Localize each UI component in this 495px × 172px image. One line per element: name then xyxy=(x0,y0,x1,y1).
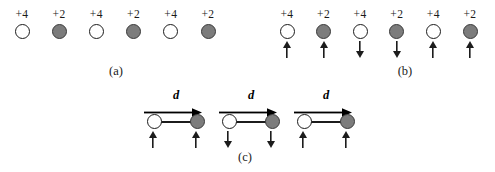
open-charge-circle xyxy=(353,24,368,39)
arrow-up-icon xyxy=(428,41,438,58)
spin-arrow-slot xyxy=(307,41,341,61)
dipole-spin-arrows xyxy=(144,131,208,148)
arrow-up-icon xyxy=(298,131,308,148)
open-charge-circle xyxy=(147,114,162,129)
charge-value-label: +4 xyxy=(416,8,450,21)
dipole-spin-arrows xyxy=(219,131,283,148)
dipole-pair xyxy=(144,114,208,130)
spin-arrow-slot xyxy=(117,41,151,61)
arrow-up-icon xyxy=(148,131,158,148)
spin-arrow-slot xyxy=(154,41,188,61)
right-spin-arrow xyxy=(191,131,201,152)
spin-arrow-slot xyxy=(42,41,76,61)
charge-value-label: +4 xyxy=(270,8,304,21)
charge-unit: +4 xyxy=(79,8,113,61)
charge-unit: +2 xyxy=(42,8,76,61)
charge-unit: +4 xyxy=(270,8,304,61)
charge-value-label: +2 xyxy=(191,8,225,21)
arrow-down-icon xyxy=(266,131,276,148)
charge-unit: +4 xyxy=(5,8,39,61)
filled-charge-circle xyxy=(340,114,355,129)
charge-value-label: +4 xyxy=(154,8,188,21)
dipole-pair xyxy=(219,114,283,130)
panel-c-caption: (c) xyxy=(225,150,265,165)
open-charge-circle xyxy=(426,24,441,39)
spin-arrow-slot xyxy=(343,41,377,61)
charge-unit: +2 xyxy=(380,8,414,61)
filled-charge-circle xyxy=(201,24,216,39)
dipole-spin-arrows xyxy=(294,131,358,148)
panel-b-caption: (b) xyxy=(385,64,425,79)
separation-label: d xyxy=(144,88,208,103)
spin-arrow-slot xyxy=(416,41,450,61)
filled-charge-circle xyxy=(389,24,404,39)
charge-value-label: +2 xyxy=(380,8,414,21)
spin-arrow-slot xyxy=(270,41,304,61)
dipole-group: d xyxy=(294,90,358,148)
charge-value-label: +4 xyxy=(343,8,377,21)
dipole-group: d xyxy=(144,90,208,148)
left-spin-arrow xyxy=(223,131,233,152)
left-spin-arrow xyxy=(148,131,158,152)
open-charge-circle xyxy=(297,114,312,129)
separation-label: d xyxy=(294,88,358,103)
right-spin-arrow xyxy=(341,131,351,152)
arrow-up-icon xyxy=(465,41,475,58)
filled-charge-circle xyxy=(265,114,280,129)
right-spin-arrow xyxy=(266,131,276,152)
arrow-up-icon xyxy=(191,131,201,148)
charge-unit: +2 xyxy=(191,8,225,61)
charge-unit: +2 xyxy=(117,8,151,61)
filled-charge-circle xyxy=(126,24,141,39)
panel-c-dipole-row: ddd xyxy=(0,90,495,152)
arrow-up-icon xyxy=(282,41,292,58)
open-charge-circle xyxy=(163,24,178,39)
charge-value-label: +4 xyxy=(79,8,113,21)
arrow-down-icon xyxy=(392,41,402,58)
charge-value-label: +4 xyxy=(5,8,39,21)
arrow-up-icon xyxy=(341,131,351,148)
physics-figure: +4+2+4+2+4+2 (a) +4+2+4+2+4+2 (b) ddd (c… xyxy=(0,0,495,172)
charge-value-label: +2 xyxy=(117,8,151,21)
charge-unit: +2 xyxy=(307,8,341,61)
filled-charge-circle xyxy=(52,24,67,39)
spin-arrow-slot xyxy=(191,41,225,61)
charge-unit: +4 xyxy=(154,8,188,61)
arrow-down-icon xyxy=(223,131,233,148)
open-charge-circle xyxy=(222,114,237,129)
separation-label: d xyxy=(219,88,283,103)
open-charge-circle xyxy=(280,24,295,39)
charge-value-label: +2 xyxy=(42,8,76,21)
charge-value-label: +2 xyxy=(307,8,341,21)
dipole-pair xyxy=(294,114,358,130)
spin-arrow-slot xyxy=(79,41,113,61)
open-charge-circle xyxy=(89,24,104,39)
open-charge-circle xyxy=(15,24,30,39)
left-spin-arrow xyxy=(298,131,308,152)
filled-charge-circle xyxy=(190,114,205,129)
arrow-up-icon xyxy=(319,41,329,58)
charge-unit: +4 xyxy=(416,8,450,61)
charge-unit: +4 xyxy=(343,8,377,61)
charge-value-label: +2 xyxy=(453,8,487,21)
arrow-down-icon xyxy=(355,41,365,58)
panel-a-caption: (a) xyxy=(96,64,136,79)
dipole-group: d xyxy=(219,90,283,148)
filled-charge-circle xyxy=(463,24,478,39)
spin-arrow-slot xyxy=(380,41,414,61)
spin-arrow-slot xyxy=(5,41,39,61)
charge-unit: +2 xyxy=(453,8,487,61)
spin-arrow-slot xyxy=(453,41,487,61)
filled-charge-circle xyxy=(316,24,331,39)
